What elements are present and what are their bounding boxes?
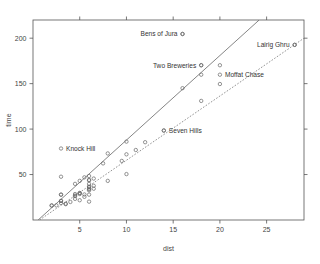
data-point [87,200,90,203]
data-point [69,200,72,203]
least-squares-fit-line [38,20,259,220]
data-point [59,193,62,196]
x-axis-tick-label: 15 [169,226,177,233]
plot-box-frame [33,20,304,220]
data-point [87,193,90,196]
labeled-data-point [162,129,165,132]
y-axis-tick-label: 50 [19,171,27,178]
y-axis-title: time [5,113,12,126]
data-point [134,148,137,151]
data-point [55,204,58,207]
data-point [106,179,109,182]
data-point [87,174,90,177]
labeled-data-point [293,43,296,46]
data-point [125,153,128,156]
y-axis-tick-label: 200 [15,35,27,42]
labeled-data-point [218,73,221,76]
x-axis-tick-label: 5 [78,226,82,233]
labeled-data-point [200,64,203,67]
data-point [59,175,62,178]
data-point [92,177,95,180]
data-point [83,195,86,198]
data-point [59,201,62,204]
data-point [50,204,53,207]
data-point [106,152,109,155]
point-label-two-breweries: Two Breweries [153,62,197,69]
data-point [78,199,81,202]
point-label-knock-hill: Knock Hill [66,145,96,152]
y-axis-tick-label: 100 [15,126,27,133]
data-point [125,172,128,175]
plot-canvas: 51015202550100150200disttimeBens of Jura… [0,0,320,264]
scatter-plot-figure: 51015202550100150200disttimeBens of Jura… [0,0,320,264]
data-point [143,141,146,144]
point-label-moffat-chase: Moffat Chase [225,71,264,78]
data-point [218,64,221,67]
data-point [120,159,123,162]
x-axis-tick-label: 20 [216,226,224,233]
data-point [73,182,76,185]
labeled-data-point [59,147,62,150]
data-point [218,82,221,85]
y-axis-tick-label: 150 [15,80,27,87]
data-point [200,99,203,102]
data-point [101,162,104,165]
x-axis-tick-label: 25 [263,226,271,233]
x-axis-title: dist [163,245,174,252]
data-point [200,73,203,76]
point-label-seven-hills: Seven Hills [169,127,203,134]
point-label-bens-of-jura: Bens of Jura [140,30,177,37]
point-label-lairig-ghru: Lairig Ghru [257,41,290,49]
x-axis-tick-label: 10 [123,226,131,233]
labeled-data-point [181,32,184,35]
